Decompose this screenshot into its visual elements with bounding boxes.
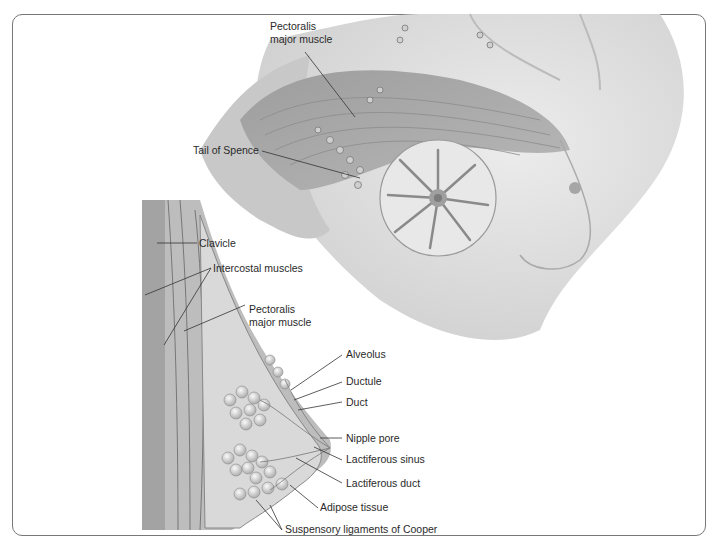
label-suspensory-ligaments: Suspensory ligaments of Cooper <box>285 523 437 536</box>
cross-section-view <box>142 200 331 530</box>
label-adipose-tissue: Adipose tissue <box>320 501 388 514</box>
label-alveolus: Alveolus <box>346 348 386 361</box>
label-lactiferous-sinus: Lactiferous sinus <box>346 453 425 466</box>
label-nipple-pore: Nipple pore <box>346 432 400 445</box>
label-duct: Duct <box>346 396 368 409</box>
label-line: Pectoralis <box>270 20 316 32</box>
label-pectoralis-major-anterior: Pectoralis major muscle <box>270 20 380 46</box>
label-lactiferous-duct: Lactiferous duct <box>346 477 420 490</box>
anterior-view <box>200 14 684 340</box>
label-line: Pectoralis <box>249 303 295 315</box>
label-pectoralis-major-section: Pectoralis major muscle <box>249 303 359 329</box>
label-line: major muscle <box>270 33 332 45</box>
anatomy-illustration <box>0 0 719 552</box>
label-intercostal-muscles: Intercostal muscles <box>213 262 303 275</box>
label-clavicle: Clavicle <box>199 237 236 250</box>
label-tail-of-spence: Tail of Spence <box>193 144 259 157</box>
label-line: major muscle <box>249 316 311 328</box>
label-ductule: Ductule <box>346 375 382 388</box>
